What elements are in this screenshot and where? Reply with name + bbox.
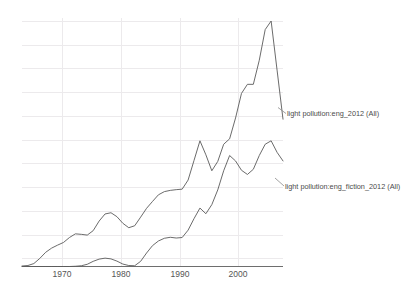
series-line-eng-fiction-2012[interactable]: [22, 141, 283, 267]
x-tick-label-1990: 1990: [171, 269, 190, 279]
x-tick-label-1980: 1980: [112, 269, 131, 279]
ngram-chart: light pollution:eng_2012 (All) light pol…: [0, 0, 416, 294]
vertical-gridlines: [62, 18, 238, 266]
horizontal-gridlines: [22, 21, 283, 258]
leader-line-series-2: [275, 178, 284, 186]
ngram-plot-svg: light pollution:eng_2012 (All) light pol…: [0, 0, 416, 294]
x-tick-label-1970: 1970: [53, 269, 72, 279]
series-label-eng-fiction-2012[interactable]: light pollution:eng_fiction_2012 (All): [285, 182, 400, 191]
x-tick-label-2000: 2000: [229, 269, 248, 279]
series-label-eng-2012[interactable]: light pollution:eng_2012 (All): [287, 109, 379, 118]
series-line-eng-2012[interactable]: [22, 21, 283, 266]
